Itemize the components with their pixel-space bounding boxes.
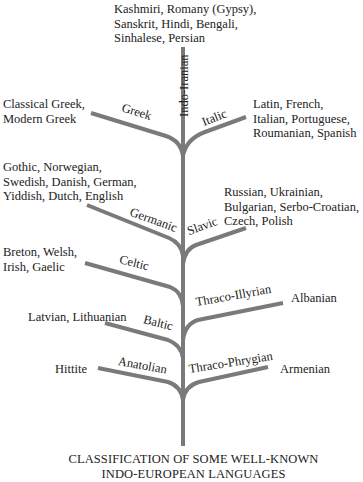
languages-thraco-phrygian: Armenian (280, 362, 330, 377)
label-indo-iranian: Indo-Iranian (178, 55, 191, 117)
languages-baltic: Latvian, Lithuanian (28, 310, 127, 325)
language-line: Sinhalese, Persian (114, 31, 256, 46)
languages-italic: Latin, French, Italian, Portuguese, Roum… (253, 97, 356, 141)
title-line-2: INDO-EUROPEAN LANGUAGES (12, 467, 363, 482)
language-line: Roumanian, Spanish (253, 126, 356, 141)
languages-slavic: Russian, Ukrainian, Bulgarian, Serbo-Cro… (224, 185, 359, 229)
branch-anatolian (98, 368, 183, 400)
language-line: Swedish, Danish, German, (3, 175, 137, 190)
language-line: Breton, Welsh, (3, 245, 77, 260)
language-line: Bulgarian, Serbo-Croatian, (224, 200, 359, 215)
language-line: Gothic, Norwegian, (3, 160, 137, 175)
languages-celtic: Breton, Welsh, Irish, Gaelic (3, 245, 77, 274)
title-line-1: CLASSIFICATION OF SOME WELL-KNOWN (12, 452, 363, 467)
languages-anatolian: Hittite (55, 362, 87, 377)
language-line: Modern Greek (3, 112, 85, 127)
language-line: Yiddish, Dutch, English (3, 189, 137, 204)
language-line: Czech, Polish (224, 214, 359, 229)
language-line: Russian, Ukrainian, (224, 185, 359, 200)
language-line: Kashmiri, Romany (Gypsy), (114, 2, 256, 17)
language-line: Sanskrit, Hindi, Bengali, (114, 17, 256, 32)
languages-indo-iranian: Kashmiri, Romany (Gypsy), Sanskrit, Hind… (114, 2, 256, 46)
diagram-title: CLASSIFICATION OF SOME WELL-KNOWN INDO-E… (12, 452, 363, 482)
language-line: Irish, Gaelic (3, 260, 77, 275)
languages-germanic: Gothic, Norwegian, Swedish, Danish, Germ… (3, 160, 137, 204)
languages-thraco-illyrian: Albanian (291, 291, 337, 306)
language-line: Italian, Portuguese, (253, 112, 356, 127)
languages-greek: Classical Greek, Modern Greek (3, 97, 85, 126)
language-line: Latin, French, (253, 97, 356, 112)
language-line: Classical Greek, (3, 97, 85, 112)
